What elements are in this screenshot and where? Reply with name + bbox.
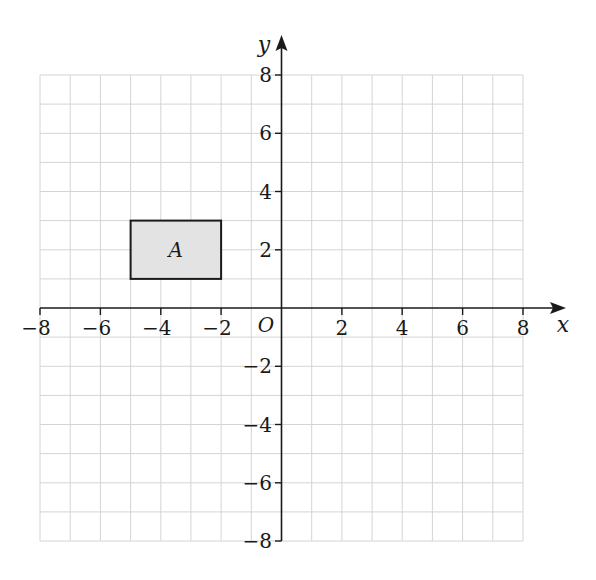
y-tick-label: 6 bbox=[259, 121, 272, 145]
y-tick-label: −4 bbox=[243, 413, 272, 437]
y-tick-label: 4 bbox=[259, 180, 272, 204]
x-axis-label: x bbox=[557, 312, 570, 337]
x-tick-label: −6 bbox=[82, 316, 111, 340]
origin-label: O bbox=[258, 313, 274, 337]
x-tick-label: −4 bbox=[142, 316, 171, 340]
axes bbox=[40, 45, 555, 541]
x-tick-label: 2 bbox=[336, 316, 349, 340]
coordinate-grid: A −8 −6 −4 −2 2 4 6 8 bbox=[0, 0, 596, 580]
y-tick-label: −6 bbox=[243, 471, 272, 495]
y-tick-label: −8 bbox=[243, 529, 272, 553]
y-tick-label: 8 bbox=[259, 63, 272, 87]
shape-a-label: A bbox=[167, 238, 183, 262]
x-tick-label: −2 bbox=[202, 316, 231, 340]
x-tick-label: 8 bbox=[517, 316, 530, 340]
y-tick-label: 2 bbox=[259, 238, 272, 262]
x-tick-label: 6 bbox=[456, 316, 469, 340]
x-tick-label: −8 bbox=[21, 316, 50, 340]
y-axis-label: y bbox=[257, 32, 271, 57]
y-tick-label: −2 bbox=[243, 354, 272, 378]
x-tick-label: 4 bbox=[396, 316, 409, 340]
